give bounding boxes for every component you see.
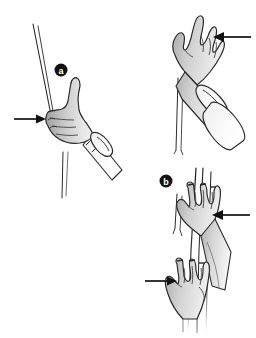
panel-label-b: b (160, 175, 173, 188)
figure-container: a (0, 0, 256, 338)
panel-label-a: a (55, 64, 68, 77)
hand-grip-illustration: a (0, 0, 256, 338)
panel-label-b-text: b (163, 177, 169, 187)
